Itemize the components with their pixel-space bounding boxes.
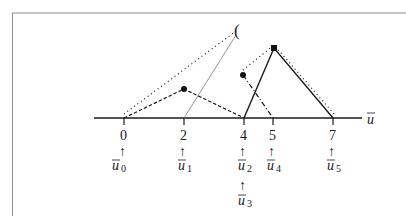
dot-marker-right (240, 72, 246, 78)
svg-text:u: u (178, 158, 185, 173)
svg-text:4: 4 (276, 163, 281, 174)
svg-text:5: 5 (336, 163, 341, 174)
figure-frame: ( u 0 2 4 5 7 ↑ ↑ ↑ ↑ ↑ u 0 u 1 u 2 u 4 … (0, 0, 406, 216)
dashed-hat-function (124, 89, 244, 118)
dotted-line-left (124, 31, 236, 114)
svg-text:2: 2 (247, 163, 252, 174)
svg-text:3: 3 (247, 198, 252, 209)
axis-ticks (124, 118, 333, 125)
arrow-up-icon: ↑ (239, 144, 246, 159)
dot-marker-left (181, 86, 187, 92)
axis-label: u (367, 112, 374, 127)
b-spline-knot-diagram: ( u 0 2 4 5 7 ↑ ↑ ↑ ↑ ↑ u 0 u 1 u 2 u 4 … (0, 0, 406, 216)
svg-text:u: u (238, 193, 245, 208)
knot-label-u0: u 0 (112, 158, 126, 174)
arrow-up-icon: ↑ (268, 144, 275, 159)
tick-label-2: 2 (180, 128, 187, 143)
solid-hat-function (244, 48, 333, 118)
square-marker-peak (271, 45, 277, 51)
knot-label-u3: u 3 (238, 193, 252, 209)
tick-label-0: 0 (120, 128, 127, 143)
knot-label-u4: u 4 (267, 158, 281, 174)
svg-text:u: u (112, 158, 119, 173)
grey-basis-line (184, 35, 236, 118)
tick-label-5: 5 (269, 128, 276, 143)
knot-label-u5: u 5 (327, 158, 341, 174)
svg-text:1: 1 (187, 163, 192, 174)
arrow-up-icon: ↑ (239, 178, 246, 193)
open-bracket-glyph: ( (234, 21, 240, 40)
arrow-up-icon: ↑ (179, 144, 186, 159)
tick-label-7: 7 (329, 128, 336, 143)
tick-label-4: 4 (240, 128, 247, 143)
knot-label-u2: u 2 (238, 158, 252, 174)
knot-label-u1: u 1 (178, 158, 192, 174)
arrow-up-icon: ↑ (119, 144, 126, 159)
svg-text:u: u (238, 158, 245, 173)
arrow-up-icon: ↑ (328, 144, 335, 159)
svg-text:0: 0 (121, 163, 126, 174)
svg-text:u: u (327, 158, 334, 173)
svg-text:u: u (267, 158, 274, 173)
